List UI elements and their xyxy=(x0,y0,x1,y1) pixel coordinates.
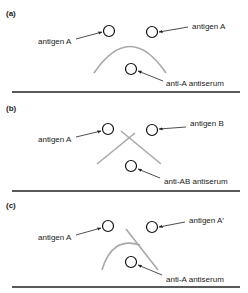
well-right-icon xyxy=(147,27,158,38)
well-right-icon xyxy=(147,222,158,233)
label-right: antigen A′ xyxy=(189,216,224,225)
label-right: antigen B xyxy=(190,119,224,128)
label-bottom: anti-AB antiserum xyxy=(164,177,228,186)
well-left-icon xyxy=(104,26,115,37)
precipitin-arc xyxy=(94,47,166,74)
arrow-icon xyxy=(159,222,185,227)
panel-b-label: (b) xyxy=(6,104,17,113)
arrow-icon xyxy=(138,265,162,275)
panel-a: (a) antigen A antigen A anti-A antiserum xyxy=(6,9,240,92)
arrow-icon xyxy=(138,71,163,81)
label-left: antigen A xyxy=(38,37,72,46)
arrow-icon xyxy=(76,32,102,39)
panel-b: (b) antigen A antigen B anti-AB antiseru… xyxy=(6,104,240,191)
label-bottom: anti-A antiserum xyxy=(166,275,224,284)
well-left-icon xyxy=(103,221,114,232)
panel-a-label: (a) xyxy=(6,9,16,18)
arrow-icon xyxy=(76,228,101,235)
arrow-icon xyxy=(76,131,101,137)
label-bottom: anti-A antiserum xyxy=(166,79,224,88)
well-bottom-icon xyxy=(126,64,137,75)
arrow-icon xyxy=(159,127,186,129)
label-left: antigen A xyxy=(38,233,72,242)
well-right-icon xyxy=(147,125,158,136)
label-left: antigen A xyxy=(38,135,72,144)
well-bottom-icon xyxy=(126,257,137,268)
arrow-icon xyxy=(138,169,160,178)
panel-c: (c) antigen A antigen A′ anti-A antiseru… xyxy=(6,201,240,287)
label-right: antigen A xyxy=(192,22,226,31)
well-left-icon xyxy=(103,124,114,135)
arrow-icon xyxy=(159,27,188,32)
precipitin-line xyxy=(97,133,135,164)
well-bottom-icon xyxy=(126,161,137,172)
precipitin-line xyxy=(126,229,158,270)
panel-c-label: (c) xyxy=(6,201,16,210)
immunodiffusion-diagram: (a) antigen A antigen A anti-A antiserum… xyxy=(0,0,248,293)
precipitin-line xyxy=(121,131,161,164)
